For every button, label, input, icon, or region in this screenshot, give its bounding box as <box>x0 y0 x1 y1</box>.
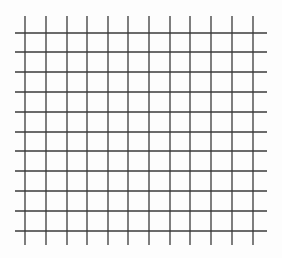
grid-canvas <box>0 0 282 258</box>
square-grid <box>0 0 282 258</box>
